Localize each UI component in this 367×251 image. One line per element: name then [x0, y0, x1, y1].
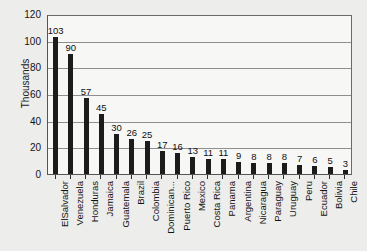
bar — [221, 159, 226, 174]
x-category-label: Chile — [348, 181, 359, 203]
x-tick — [55, 175, 56, 179]
y-tick-label: 60 — [30, 90, 41, 100]
x-tick — [238, 175, 239, 179]
bar-value-label: 103 — [48, 26, 64, 36]
x-category-label: Peru — [303, 181, 314, 201]
x-category-label: ElSalvador — [59, 181, 70, 227]
x-tick — [314, 175, 315, 179]
x-category-label: Honduras — [89, 181, 100, 222]
bar — [267, 163, 272, 174]
x-tick — [116, 175, 117, 179]
bar — [297, 165, 302, 174]
bar-value-label: 9 — [236, 151, 241, 161]
plot-area: 103905745302625171613111198887653 — [47, 15, 352, 175]
x-tick — [268, 175, 269, 179]
bar — [282, 163, 287, 174]
x-tick — [131, 175, 132, 179]
x-category-label: Paraguay — [272, 181, 283, 222]
bar-value-label: 90 — [66, 43, 77, 53]
bar-value-label: 11 — [203, 148, 213, 158]
x-category-label: Argentina — [242, 181, 253, 222]
bar-value-label: 3 — [343, 159, 348, 169]
y-tick-label: 120 — [24, 10, 41, 20]
bar — [251, 163, 256, 174]
bar — [145, 141, 150, 174]
x-tick — [70, 175, 71, 179]
x-category-label: Puerto Rico — [181, 181, 192, 231]
x-category-label: Ecuador — [318, 181, 329, 216]
x-axis-category-labels: ElSalvadorVenezuelaHondurasJamaicaGuatem… — [47, 175, 352, 251]
x-tick — [85, 175, 86, 179]
x-tick — [161, 175, 162, 179]
bar-value-label: 7 — [297, 154, 302, 164]
y-tick-label: 20 — [30, 143, 41, 153]
x-category-label: Costa Rica — [211, 181, 222, 227]
bar — [68, 54, 73, 174]
x-category-label: Jamaica — [104, 181, 115, 216]
bars-layer: 103905745302625171613111198887653 — [48, 16, 351, 174]
bar — [312, 166, 317, 174]
bar-value-label: 5 — [327, 156, 332, 166]
bar — [175, 153, 180, 174]
x-tick — [344, 175, 345, 179]
x-category-label: Uruguay — [287, 181, 298, 217]
bar — [99, 114, 104, 174]
bar — [160, 151, 165, 174]
x-category-label: Brazil — [135, 181, 146, 205]
y-tick-label: 80 — [30, 63, 41, 73]
x-tick — [100, 175, 101, 179]
bar-value-label: 25 — [142, 130, 153, 140]
x-tick — [192, 175, 193, 179]
bar-chart: Thousands 020406080100120 10390574530262… — [0, 0, 367, 251]
bar-value-label: 6 — [312, 155, 317, 165]
y-tick-label: 0 — [35, 170, 41, 180]
x-tick — [253, 175, 254, 179]
x-category-label: Panama — [226, 181, 237, 216]
bar — [190, 157, 195, 174]
x-tick — [222, 175, 223, 179]
x-category-label: Colombia — [150, 181, 161, 221]
x-tick — [207, 175, 208, 179]
bar — [328, 167, 333, 174]
x-category-label: Bolivia — [333, 181, 344, 209]
bar — [236, 162, 241, 174]
x-category-label: Nicaragua — [257, 181, 268, 224]
y-tick-label: 100 — [24, 37, 41, 47]
bar-value-label: 11 — [218, 148, 228, 158]
bar-value-label: 57 — [81, 87, 92, 97]
y-axis-tick-labels: 020406080100120 — [0, 0, 45, 251]
bar — [84, 98, 89, 174]
x-tick — [146, 175, 147, 179]
x-category-label: Venezuela — [74, 181, 85, 225]
bar-value-label: 8 — [282, 152, 287, 162]
bar — [206, 159, 211, 174]
x-category-label: Mexico — [196, 181, 207, 211]
x-tick — [299, 175, 300, 179]
bar-value-label: 8 — [251, 152, 256, 162]
x-tick — [283, 175, 284, 179]
bar — [114, 134, 119, 174]
bar-value-label: 13 — [188, 146, 199, 156]
bar — [129, 139, 134, 174]
x-tick — [177, 175, 178, 179]
bar — [53, 37, 58, 174]
bar-value-label: 26 — [127, 128, 138, 138]
x-category-label: Guatemala — [120, 181, 131, 227]
bar-value-label: 8 — [266, 152, 271, 162]
y-tick-label: 40 — [30, 117, 41, 127]
bar-value-label: 17 — [157, 140, 168, 150]
x-category-label: Dominican... — [165, 181, 176, 234]
bar-value-label: 16 — [172, 142, 183, 152]
bar-value-label: 45 — [96, 103, 107, 113]
x-tick — [329, 175, 330, 179]
bar-value-label: 30 — [111, 123, 122, 133]
bar — [343, 170, 348, 174]
